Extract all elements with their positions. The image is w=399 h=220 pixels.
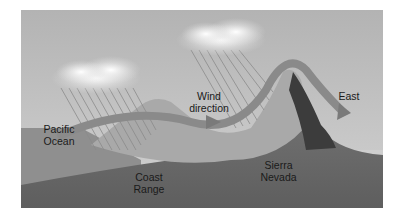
label-coast-line1: Coast [129, 171, 169, 183]
label-wind-line2: direction [184, 102, 234, 114]
label-pacific-line2: Ocean [39, 135, 79, 147]
label-east: East [334, 90, 364, 102]
label-wind-line1: Wind [184, 90, 234, 102]
label-pacific-ocean: Pacific Ocean [39, 123, 79, 147]
label-coast-range: Coast Range [129, 171, 169, 195]
label-sierra-line2: Nevada [256, 171, 301, 183]
label-sierra-nevada: Sierra Nevada [256, 159, 301, 183]
label-east-text: East [334, 90, 364, 102]
label-wind-direction: Wind direction [184, 90, 234, 114]
label-coast-line2: Range [129, 183, 169, 195]
label-sierra-line1: Sierra [256, 159, 301, 171]
rain-shadow-diagram: Pacific Ocean Wind direction East Coast … [21, 10, 383, 208]
label-pacific-line1: Pacific [39, 123, 79, 135]
